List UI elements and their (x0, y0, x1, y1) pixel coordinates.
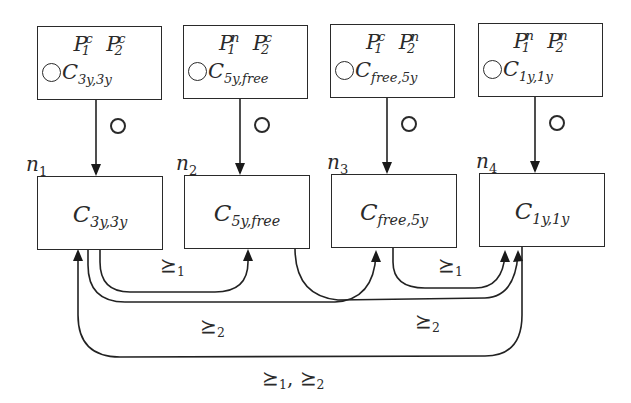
node-name-n4: n4 (476, 149, 497, 176)
node-n3: Cfree,5y (331, 174, 457, 248)
next-operator-icon (42, 63, 61, 82)
node-name-n1: n1 (26, 152, 47, 179)
next-operator-icon (483, 60, 502, 79)
arrowhead-next-2 (235, 163, 245, 175)
next-edge-label-icon-4 (549, 115, 565, 131)
top-box-2: P1n P2c C5y,free (183, 25, 308, 99)
next-edge-label-icon-2 (254, 117, 270, 133)
arrowhead-n4-a (500, 250, 510, 262)
node-n3-label: Cfree,5y (332, 199, 456, 228)
arrowhead-n2 (243, 249, 253, 261)
next-edge-label-icon-1 (110, 118, 126, 134)
arrowhead-next-3 (382, 162, 392, 174)
edge-n1-n3 (88, 249, 376, 302)
top-box-4-props: P1n P2n (479, 28, 602, 55)
edge-label-n4-n1: ⪰1, ⪰2 (262, 366, 325, 392)
top-box-4: P1n P2n C1y,1y (478, 23, 603, 97)
arrowhead-next-4 (530, 161, 540, 173)
next-edge-label-icon-3 (401, 116, 417, 132)
node-n2-label: C5y,free (185, 200, 309, 229)
top-box-1-props: P1c P2c (38, 31, 161, 58)
node-name-n2: n2 (176, 151, 197, 178)
next-operator-icon (188, 62, 207, 81)
edge-label-n1-n3: ⪰2 (200, 314, 225, 340)
node-n1-label: C3y,3y (38, 201, 162, 230)
node-n4: C1y,1y (479, 173, 605, 247)
top-box-3-formula: Cfree,5y (335, 58, 417, 85)
top-box-1-formula: C3y,3y (42, 60, 112, 87)
edge-label-n3-n4: ⪰1 (438, 253, 463, 279)
arrowhead-n1 (73, 249, 83, 261)
arrowhead-n3 (371, 250, 381, 262)
edge-n2-n4 (295, 248, 518, 300)
top-box-4-formula: C1y,1y (483, 57, 553, 84)
next-operator-icon (335, 61, 354, 80)
node-n4-label: C1y,1y (480, 198, 604, 227)
arrowhead-next-1 (91, 164, 101, 176)
top-box-2-props: P1n P2c (184, 30, 307, 57)
top-box-3-props: P1c P2n (331, 29, 454, 56)
edge-label-n2-n4: ⪰2 (415, 309, 440, 335)
edge-label-n1-n2: ⪰1 (160, 253, 185, 279)
top-box-1: P1c P2c C3y,3y (37, 26, 162, 100)
node-name-n3: n3 (327, 150, 348, 177)
top-box-3: P1c P2n Cfree,5y (330, 24, 455, 98)
node-n1: C3y,3y (37, 176, 163, 250)
diagram-canvas: P1c P2c C3y,3y P1n P2c C5y,free P1c P2n … (0, 0, 631, 403)
node-n2: C5y,free (184, 175, 310, 249)
top-box-2-formula: C5y,free (188, 59, 269, 86)
